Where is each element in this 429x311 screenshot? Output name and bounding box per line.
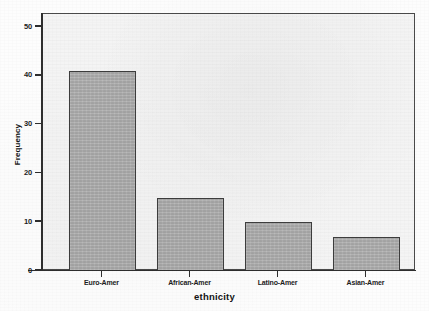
y-axis-line — [41, 13, 43, 271]
x-tick-mark — [365, 271, 367, 277]
y-tick-label: 40 — [10, 70, 32, 79]
bar-euro-amer — [69, 71, 136, 271]
bar-asian-amer — [333, 237, 400, 271]
x-tick-mark — [277, 271, 279, 277]
y-tick-label: 50 — [10, 22, 32, 31]
x-axis-title: ethnicity — [0, 291, 429, 302]
y-axis-title: Frequency — [13, 100, 22, 190]
y-tick-mark — [35, 74, 41, 76]
x-tick-mark — [189, 271, 191, 277]
y-tick-mark — [35, 123, 41, 125]
x-tick-label: Euro-Amer — [57, 279, 147, 286]
y-tick-mark — [35, 220, 41, 222]
x-tick-label: Asian-Amer — [321, 279, 411, 286]
y-tick-label: 0 — [10, 266, 32, 275]
x-tick-mark — [101, 271, 103, 277]
bar-latino-amer — [245, 222, 312, 271]
y-tick-mark — [35, 269, 41, 271]
y-tick-mark — [35, 25, 41, 27]
x-axis-line — [28, 270, 416, 272]
y-tick-label: 10 — [10, 217, 32, 226]
y-tick-mark — [35, 172, 41, 174]
plot-area-frame — [42, 13, 415, 270]
x-tick-label: African-Amer — [145, 279, 235, 286]
x-tick-label: Latino-Amer — [233, 279, 323, 286]
bar-african-amer — [157, 198, 224, 271]
bar-chart-figure: 50403020100 Euro-AmerAfrican-AmerLatino-… — [0, 0, 429, 311]
